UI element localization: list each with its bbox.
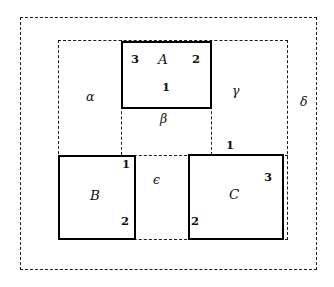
box-c-label: C <box>229 188 239 202</box>
box-a-number-bottom: 1 <box>162 82 170 94</box>
box-c-number-top: 1 <box>226 140 234 152</box>
region-label-alpha: α <box>86 91 94 104</box>
region-label-beta: β <box>160 113 167 126</box>
box-c-number-bottom-left: 2 <box>191 216 199 228</box>
diagram-canvas: 3 A 2 1 1 B 2 1 3 C 2 α β γ δ ϵ <box>0 0 334 287</box>
box-b-number-bottom-right: 2 <box>121 216 129 228</box>
box-b-label: B <box>90 189 100 203</box>
box-a-number-top-right: 2 <box>192 54 200 66</box>
box-b-number-top-right: 1 <box>122 159 130 171</box>
box-a-number-top-left: 3 <box>131 54 139 66</box>
region-label-delta: δ <box>300 96 308 109</box>
box-a-label: A <box>158 53 168 67</box>
region-label-gamma: γ <box>232 85 239 98</box>
region-label-epsilon: ϵ <box>153 174 160 187</box>
box-c-number-right: 3 <box>264 172 272 184</box>
